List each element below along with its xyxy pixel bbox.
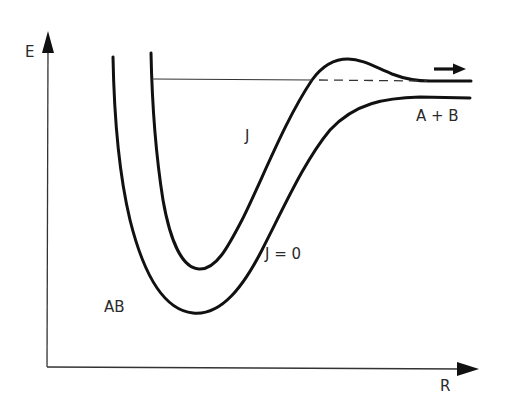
label-molecule: AB — [104, 298, 125, 316]
curve-j — [151, 53, 471, 269]
distance-axis-arrowhead-icon — [457, 362, 479, 376]
energy-level-solid — [152, 79, 312, 80]
energy-axis-label: E — [25, 43, 34, 61]
potential-energy-diagram: E R J J = 0 A + B AB — [0, 0, 506, 407]
distance-axis — [47, 367, 464, 369]
label-curve-j: J — [244, 127, 249, 145]
energy-axis — [47, 46, 48, 367]
label-dissociation-products: A + B — [416, 107, 459, 125]
distance-label: R — [440, 377, 450, 395]
dissociation-arrow-icon — [434, 64, 466, 75]
label-curve-j0: J = 0 — [264, 245, 301, 263]
curve-j0 — [113, 57, 470, 313]
axes: E R — [25, 31, 479, 395]
energy-axis-arrowhead-icon — [42, 31, 54, 53]
